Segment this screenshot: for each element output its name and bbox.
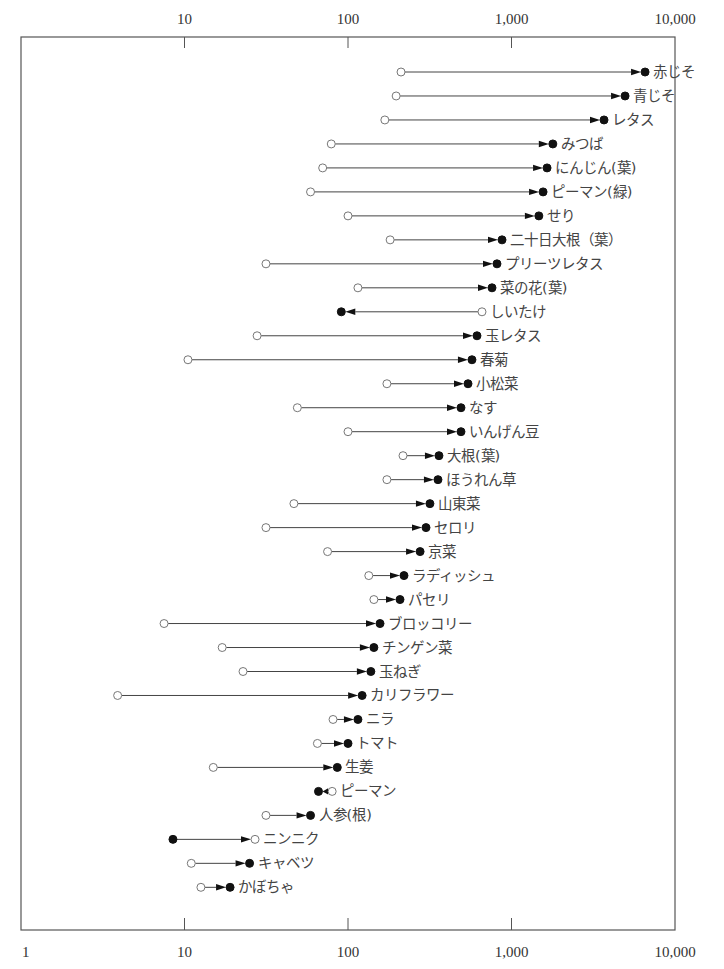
filled-circle-marker [488, 284, 496, 292]
open-circle-marker [370, 596, 378, 604]
row-label: レタス [612, 112, 654, 128]
open-circle-marker [344, 428, 352, 436]
open-circle-marker [262, 524, 270, 532]
data-row: ニンニク [169, 831, 319, 847]
bottom-tick-label: 10 [177, 944, 192, 960]
chart: 101001,00010,000 1101001,00010,000 赤じそ青じ… [0, 0, 724, 969]
data-row: にんじん(葉) [319, 160, 637, 176]
filled-circle-marker [422, 524, 430, 532]
open-circle-marker [262, 811, 270, 819]
arrow-head-icon [533, 165, 543, 171]
arrow-head-icon [348, 692, 358, 698]
row-label: トマト [356, 735, 398, 751]
arrow-head-icon [488, 237, 498, 243]
arrow-head-icon [412, 524, 422, 530]
open-circle-marker [293, 404, 301, 412]
arrow-head-icon [386, 596, 396, 602]
arrow-head-icon [323, 764, 333, 770]
data-row: キャベツ [187, 855, 313, 871]
filled-circle-marker [354, 715, 362, 723]
data-row: セロリ [262, 520, 476, 536]
data-row: 玉レタス [253, 328, 541, 344]
data-row: ラディッシュ [365, 567, 495, 584]
arrow-head-icon [360, 644, 370, 650]
filled-circle-marker [543, 164, 551, 172]
arrow-head-icon [424, 476, 434, 482]
open-circle-marker [329, 715, 337, 723]
row-label: ブロッコリー [388, 615, 472, 632]
filled-circle-marker [416, 548, 424, 556]
arrow-head-icon [345, 309, 355, 315]
open-circle-marker [187, 859, 195, 867]
filled-circle-marker [621, 92, 629, 100]
row-label: ピーマン(緑) [551, 184, 632, 200]
bottom-tick-label: 10,000 [654, 944, 695, 960]
open-circle-marker [383, 380, 391, 388]
open-circle-marker [365, 572, 373, 580]
row-label: セロリ [434, 520, 476, 536]
open-circle-marker [319, 164, 327, 172]
top-tick-label: 1,000 [495, 11, 529, 27]
row-label: プリーツレタス [505, 256, 603, 272]
arrow-head-icon [390, 572, 400, 578]
filled-circle-marker [426, 500, 434, 508]
arrow-head-icon [241, 836, 251, 842]
top-axis: 101001,00010,000 [177, 11, 696, 48]
open-circle-marker [313, 739, 321, 747]
filled-circle-marker [396, 596, 404, 604]
data-row: みつば [327, 136, 604, 152]
data-row: プリーツレタス [262, 256, 603, 272]
arrow-head-icon [631, 69, 641, 75]
arrow-head-icon [297, 812, 307, 818]
filled-circle-marker [344, 739, 352, 747]
top-tick-label: 10,000 [654, 11, 695, 27]
bottom-tick-label: 1,000 [495, 944, 529, 960]
data-row: パセリ [370, 592, 450, 608]
open-circle-marker [307, 188, 315, 196]
open-circle-marker [328, 787, 336, 795]
open-circle-marker [184, 356, 192, 364]
data-row: レタス [381, 112, 654, 128]
row-label: 玉レタス [485, 328, 541, 344]
data-row: 玉ねぎ [239, 664, 421, 680]
row-label: 青じそ [633, 88, 675, 104]
data-row: 京菜 [324, 544, 457, 560]
row-label: 人参(根) [319, 807, 372, 823]
filled-circle-marker [549, 140, 557, 148]
arrow-head-icon [425, 452, 435, 458]
arrow-head-icon [447, 429, 457, 435]
arrow-head-icon [334, 740, 344, 746]
filled-circle-marker [370, 644, 378, 652]
data-rows: 赤じそ青じそレタスみつばにんじん(葉)ピーマン(緑)せり二十日大根（葉）プリーツ… [114, 64, 695, 895]
arrow-head-icon [539, 141, 549, 147]
open-circle-marker [381, 116, 389, 124]
row-label: 赤じそ [653, 64, 695, 80]
row-label: 菜の花(葉) [500, 280, 567, 296]
arrow-head-icon [525, 213, 535, 219]
filled-circle-marker [464, 380, 472, 388]
open-circle-marker [327, 140, 335, 148]
data-row: いんげん豆 [344, 424, 539, 440]
filled-circle-marker [457, 428, 465, 436]
data-row: ニラ [329, 711, 394, 727]
open-circle-marker [354, 284, 362, 292]
row-label: ニンニク [263, 831, 319, 847]
row-label: いんげん豆 [469, 424, 539, 440]
open-circle-marker [344, 212, 352, 220]
data-row: トマト [313, 735, 398, 751]
open-circle-marker [290, 500, 298, 508]
arrow-head-icon [366, 620, 376, 626]
arrow-head-icon [478, 285, 488, 291]
open-circle-marker [239, 668, 247, 676]
filled-circle-marker [539, 188, 547, 196]
row-label: ラディッシュ [412, 567, 495, 584]
filled-circle-marker [468, 356, 476, 364]
data-row: 小松菜 [383, 376, 518, 392]
open-circle-marker [383, 476, 391, 484]
filled-circle-marker [367, 668, 375, 676]
filled-circle-marker [498, 236, 506, 244]
row-label: せり [547, 208, 575, 224]
filled-circle-marker [337, 308, 345, 316]
row-label: 小松菜 [476, 376, 518, 392]
filled-circle-marker [314, 787, 322, 795]
